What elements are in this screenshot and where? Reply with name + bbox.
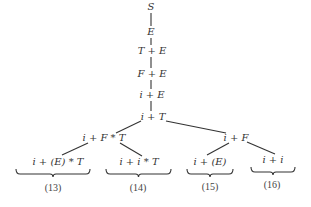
tree-edges bbox=[0, 0, 311, 207]
tree-node: T + E bbox=[138, 46, 167, 56]
tree-node: i + i * T bbox=[119, 157, 158, 167]
tree-edge bbox=[166, 121, 226, 133]
tree-node: i + (E) * T bbox=[32, 157, 83, 167]
brace-label: (14) bbox=[130, 183, 147, 193]
tree-node: i + F * T bbox=[83, 133, 126, 143]
tree-node: S bbox=[148, 2, 155, 12]
tree-node: i + (E) bbox=[193, 157, 226, 167]
tree-edge bbox=[207, 143, 229, 155]
brace-label: (15) bbox=[202, 182, 219, 192]
brace-label: (13) bbox=[45, 183, 62, 193]
tree-node: F + E bbox=[138, 69, 167, 79]
tree-node: i + i bbox=[262, 155, 283, 165]
tree-node: E bbox=[147, 27, 154, 37]
tree-edge bbox=[120, 143, 142, 156]
underbrace bbox=[16, 169, 90, 177]
tree-node: i + F bbox=[224, 133, 249, 143]
brace-label: (16) bbox=[264, 180, 281, 190]
underbrace bbox=[187, 169, 233, 177]
tree-node: i + T bbox=[141, 112, 166, 122]
tree-edge bbox=[62, 143, 88, 155]
underbrace bbox=[251, 167, 295, 175]
derivation-tree-diagram: SET + EF + Ei + Ei + Ti + F * Ti + Fi + … bbox=[0, 0, 311, 207]
tree-edge bbox=[247, 142, 275, 154]
tree-node: i + E bbox=[139, 90, 164, 100]
underbrace bbox=[106, 169, 171, 177]
